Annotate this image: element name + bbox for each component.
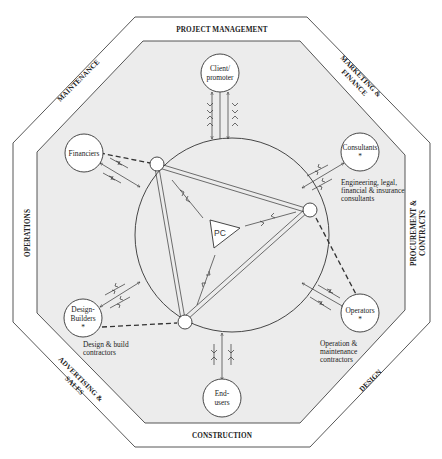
svg-text:promoter: promoter — [206, 73, 234, 82]
svg-text:End-: End- — [215, 389, 230, 398]
svg-text:Builders: Builders — [70, 314, 95, 323]
svg-text:Consultants: Consultants — [343, 143, 378, 152]
node-client-promoter: Client/ promoter — [201, 54, 239, 92]
node-financiers: Financiers — [65, 134, 103, 172]
project-stakeholder-diagram: PROJECT MANAGEMENT MARKETING & FINANCE P… — [0, 0, 442, 459]
svg-text:PROCUREMENT &: PROCUREMENT & — [410, 200, 418, 266]
hub-node-top-left — [150, 157, 164, 171]
note-operators: Operation & maintenance contractors — [320, 339, 358, 364]
svg-text:contractors: contractors — [320, 355, 353, 364]
svg-text:Financiers: Financiers — [69, 149, 100, 158]
band-label-construction: CONSTRUCTION — [192, 432, 253, 440]
pc-label: PC — [214, 228, 226, 238]
node-operators: Operators * — [341, 294, 379, 332]
svg-text:Client/: Client/ — [210, 64, 231, 73]
hub-node-right — [303, 203, 317, 217]
project-circle — [135, 138, 329, 332]
svg-text:*: * — [358, 315, 362, 324]
svg-text:Operators: Operators — [345, 306, 374, 315]
node-consultants: Consultants * — [341, 133, 379, 171]
hub-node-bottom-left — [178, 315, 192, 329]
band-label-operations: OPERATIONS — [24, 209, 32, 257]
svg-text:consultants: consultants — [341, 194, 374, 203]
node-end-users: End- users — [203, 379, 241, 417]
svg-text:users: users — [214, 398, 229, 407]
band-label-project-management: PROJECT MANAGEMENT — [176, 26, 267, 34]
svg-text:CONTRACTS: CONTRACTS — [419, 210, 427, 256]
node-design-builders: Design- Builders * — [64, 299, 102, 337]
svg-text:contractors: contractors — [83, 348, 116, 357]
svg-text:Design-: Design- — [71, 305, 95, 314]
svg-text:*: * — [81, 323, 85, 332]
svg-text:*: * — [358, 152, 362, 161]
